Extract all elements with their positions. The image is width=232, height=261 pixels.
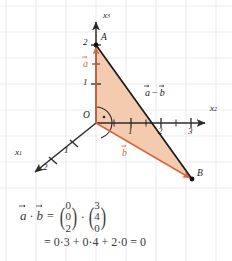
vector-label-a-minus-b: a − b (145, 88, 165, 98)
eq-equals-1: = (43, 209, 58, 223)
column-vector-a: (002) (58, 200, 79, 234)
eq-matrix-pair: (002)·(340) (58, 200, 108, 234)
paren-close-b: ) (100, 207, 105, 227)
figure-page: x3 x2 x1 1 2 1 2 3 1 2 O A B a b (0, 0, 232, 261)
tick-label-x3-2: 2 (83, 38, 88, 47)
equation-line-1: a · b =(002)·(340) (20, 200, 107, 234)
axis-label-x3: x3 (103, 11, 110, 20)
point-label-b: B (197, 169, 203, 179)
tick-label-x3-1: 1 (83, 78, 88, 87)
vector-arrow-accent-a2 (144, 84, 149, 88)
vector-b-letter: b (122, 147, 127, 158)
tick-label-x1-1: 1 (64, 146, 69, 155)
vector-label-a: a (83, 59, 88, 69)
paren-open-b: ( (88, 207, 93, 227)
vector-b-row-3: 0 (94, 223, 100, 234)
vector-a-row-3: 2 (65, 223, 71, 234)
point-label-a: A (101, 33, 107, 43)
vector-b-row-2: 4 (94, 211, 100, 222)
tick-label-x1-2: 2 (43, 163, 48, 172)
vector-a-row-2: 0 (65, 211, 71, 222)
vector-label-b: b (122, 148, 127, 158)
axis-label-x2: x2 (210, 104, 217, 113)
tick-label-x2-3: 3 (188, 127, 193, 136)
vector-a-letter: a (83, 58, 88, 69)
vector-arrow-accent-a (82, 55, 87, 59)
equation-line-2: = 0·3 + 0·4 + 2·0 = 0 (44, 236, 146, 248)
paren-open-a: ( (59, 207, 64, 227)
eq-vector-arrow-a (19, 204, 26, 208)
eq-mul-operator: · (79, 211, 87, 223)
tick-label-x2-2: 2 (158, 127, 163, 136)
a-minus-b-operator: − (150, 87, 160, 98)
tick-label-x2-1: 1 (128, 127, 133, 136)
eq-lhs-a: a (20, 208, 27, 223)
point-label-origin: O (83, 111, 90, 121)
a-minus-b-letter-a: a (145, 87, 150, 98)
vector-arrow-accent-b (121, 144, 126, 148)
eq-dot-operator: · (27, 209, 37, 223)
vector-arrow-accent-b2 (159, 84, 164, 88)
paren-close-a: ) (72, 207, 77, 227)
a-minus-b-letter-b: b (160, 87, 165, 98)
right-angle-dot (103, 116, 106, 119)
eq-vector-arrow-b (36, 204, 43, 208)
point-a-dot (94, 43, 99, 48)
point-b-dot (190, 177, 195, 182)
column-vector-b: (340) (87, 200, 108, 234)
axis-label-x1: x1 (15, 148, 22, 157)
eq-lhs-b: b (37, 208, 44, 223)
